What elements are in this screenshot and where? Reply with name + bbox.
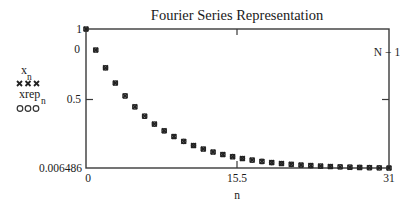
y-tick-label-min: 0.006486 (39, 162, 82, 174)
legend-entry-xn: x n (17, 63, 39, 86)
chart-title: Fourier Series Representation (151, 7, 324, 23)
x-tick-label-max: 31 (383, 172, 395, 184)
data-points (84, 27, 392, 171)
x-axis-label: n (234, 189, 240, 201)
plot-frame (86, 29, 389, 168)
y-tick-label-mid: 0.5 (67, 93, 82, 105)
legend-subscript-xn: n (27, 72, 32, 82)
legend-symbol-circle-icon (17, 106, 39, 112)
legend-label-xrepn: xrep (19, 87, 40, 101)
x-marker-label: N − 1 (374, 46, 401, 58)
y-tick-label-marker: 0 (74, 43, 80, 55)
fourier-series-chart: Fourier Series Representation 1 0 0.5 0.… (0, 0, 414, 209)
chart-canvas: Fourier Series Representation 1 0 0.5 0.… (0, 0, 414, 209)
x-tick-label-min: 0 (85, 172, 91, 184)
legend-entry-xrepn: xrep n (17, 87, 46, 111)
legend-subscript-xrepn: n (41, 96, 46, 106)
legend: x n xrep n (17, 63, 46, 111)
x-tick-label-mid: 15.5 (227, 172, 247, 184)
y-tick-label-max: 1 (76, 23, 82, 35)
